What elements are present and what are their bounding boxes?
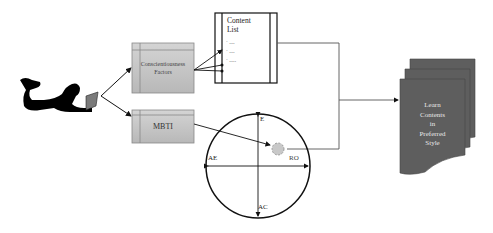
- axis-label-top: E: [260, 115, 264, 123]
- arrow-to-mbti: [101, 96, 131, 116]
- factors-label: Conscientiousness Factors: [132, 60, 194, 76]
- content-list-items: · .... · .... · .....: [226, 38, 236, 65]
- axis-label-right: RO: [289, 154, 299, 162]
- person-with-laptop-icon: [20, 78, 98, 112]
- arrow-mbti-to-circle: [194, 124, 270, 145]
- output-doc-text: Learn Contents in Preferred Style: [400, 101, 465, 149]
- user-position-marker: [272, 143, 284, 155]
- axis-label-left: AE: [208, 154, 217, 162]
- axis-label-bottom: AC: [258, 203, 268, 211]
- list-item: · .....: [226, 56, 236, 65]
- arrow-to-factors: [101, 68, 131, 96]
- content-list-title: Content List: [227, 16, 251, 34]
- list-item: · ....: [226, 38, 236, 47]
- mbti-label: MBTI: [132, 122, 194, 131]
- list-item: · ....: [226, 47, 236, 56]
